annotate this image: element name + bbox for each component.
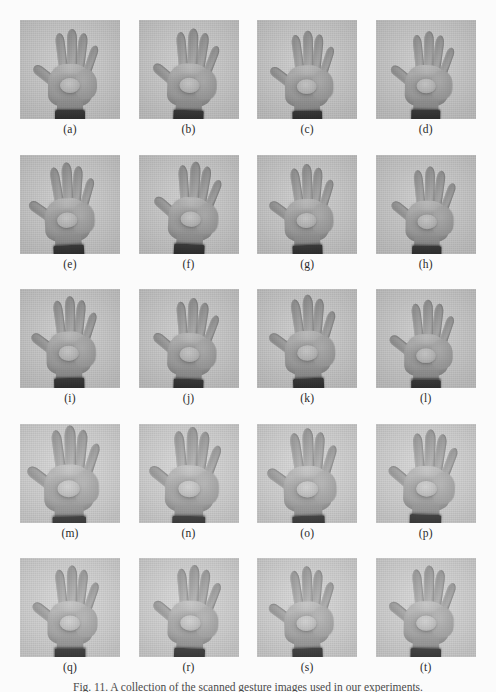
figure-panel: (a) xyxy=(20,20,120,155)
photo-grain xyxy=(257,424,357,523)
panel-label: (f) xyxy=(139,258,239,270)
figure-panel: (g) xyxy=(257,155,357,290)
figure-panel: (i) xyxy=(20,289,120,424)
photo-scene xyxy=(139,155,239,254)
photo-scene xyxy=(139,558,239,657)
hand-gesture-photo xyxy=(376,20,476,119)
hand-gesture-photo xyxy=(20,20,120,119)
figure-panel: (c) xyxy=(257,20,357,155)
hand-gesture-photo xyxy=(139,424,239,523)
hand-gesture-photo xyxy=(257,558,357,657)
photo-scene xyxy=(376,289,476,388)
figure-panel: (l) xyxy=(376,289,476,424)
figure-panel: (n) xyxy=(139,424,239,559)
hand-gesture-photo xyxy=(20,424,120,523)
photo-grain xyxy=(257,155,357,254)
photo-grain xyxy=(20,558,120,657)
figure-panel: (h) xyxy=(376,155,476,290)
figure-panel: (p) xyxy=(376,424,476,559)
panel-label: (k) xyxy=(257,392,357,404)
photo-grain xyxy=(376,20,476,119)
figure-panel: (e) xyxy=(20,155,120,290)
photo-scene xyxy=(376,155,476,254)
hand-gesture-photo xyxy=(376,155,476,254)
hand-gesture-photo xyxy=(20,289,120,388)
figure-panel: (j) xyxy=(139,289,239,424)
photo-scene xyxy=(20,558,120,657)
panel-label: (q) xyxy=(20,661,120,673)
panel-label: (p) xyxy=(376,527,476,539)
panel-label: (h) xyxy=(376,258,476,270)
photo-scene xyxy=(376,424,476,523)
photo-grain xyxy=(139,558,239,657)
photo-grain xyxy=(376,289,476,388)
panel-label: (r) xyxy=(139,661,239,673)
panel-label: (j) xyxy=(139,392,239,404)
hand-gesture-photo xyxy=(139,155,239,254)
photo-scene xyxy=(257,558,357,657)
figure-caption: Fig. 11. A collection of the scanned ges… xyxy=(0,681,496,692)
photo-scene xyxy=(376,558,476,657)
photo-scene xyxy=(20,424,120,523)
photo-scene xyxy=(20,20,120,119)
figure-panel: (m) xyxy=(20,424,120,559)
image-grid: (a)(b)(c)(d)(e)(f)(g)(h)(i)(j)(k)(l)(m)(… xyxy=(20,20,476,692)
photo-grain xyxy=(139,289,239,388)
photo-grain xyxy=(20,424,120,523)
figure-panel: (f) xyxy=(139,155,239,290)
hand-gesture-photo xyxy=(376,289,476,388)
photo-scene xyxy=(20,289,120,388)
hand-gesture-photo xyxy=(139,20,239,119)
figure-panel: (s) xyxy=(257,558,357,692)
panel-label: (s) xyxy=(257,661,357,673)
photo-scene xyxy=(139,289,239,388)
figure-panel: (k) xyxy=(257,289,357,424)
photo-scene xyxy=(257,289,357,388)
photo-grain xyxy=(139,424,239,523)
photo-scene xyxy=(257,155,357,254)
panel-label: (n) xyxy=(139,527,239,539)
photo-scene xyxy=(20,155,120,254)
photo-grain xyxy=(139,155,239,254)
figure-sheet: (a)(b)(c)(d)(e)(f)(g)(h)(i)(j)(k)(l)(m)(… xyxy=(0,0,496,692)
photo-grain xyxy=(376,155,476,254)
photo-grain xyxy=(20,20,120,119)
panel-label: (a) xyxy=(20,123,120,135)
photo-grain xyxy=(257,289,357,388)
figure-panel: (b) xyxy=(139,20,239,155)
photo-grain xyxy=(20,289,120,388)
photo-scene xyxy=(139,424,239,523)
hand-gesture-photo xyxy=(257,289,357,388)
photo-grain xyxy=(139,20,239,119)
figure-panel: (o) xyxy=(257,424,357,559)
panel-label: (i) xyxy=(20,392,120,404)
figure-panel: (t) xyxy=(376,558,476,692)
panel-label: (t) xyxy=(376,661,476,673)
photo-scene xyxy=(139,20,239,119)
photo-grain xyxy=(20,155,120,254)
figure-panel: (d) xyxy=(376,20,476,155)
hand-gesture-photo xyxy=(139,289,239,388)
photo-scene xyxy=(257,424,357,523)
hand-gesture-photo xyxy=(376,424,476,523)
hand-gesture-photo xyxy=(376,558,476,657)
hand-gesture-photo xyxy=(257,424,357,523)
hand-gesture-photo xyxy=(139,558,239,657)
panel-label: (c) xyxy=(257,123,357,135)
panel-label: (d) xyxy=(376,123,476,135)
photo-scene xyxy=(376,20,476,119)
photo-grain xyxy=(257,558,357,657)
panel-label: (g) xyxy=(257,258,357,270)
figure-panel: (r) xyxy=(139,558,239,692)
hand-gesture-photo xyxy=(20,558,120,657)
hand-gesture-photo xyxy=(20,155,120,254)
panel-label: (m) xyxy=(20,527,120,539)
photo-grain xyxy=(376,558,476,657)
photo-grain xyxy=(257,20,357,119)
panel-label: (e) xyxy=(20,258,120,270)
hand-gesture-photo xyxy=(257,155,357,254)
figure-panel: (q) xyxy=(20,558,120,692)
panel-label: (l) xyxy=(376,392,476,404)
photo-grain xyxy=(376,424,476,523)
hand-gesture-photo xyxy=(257,20,357,119)
